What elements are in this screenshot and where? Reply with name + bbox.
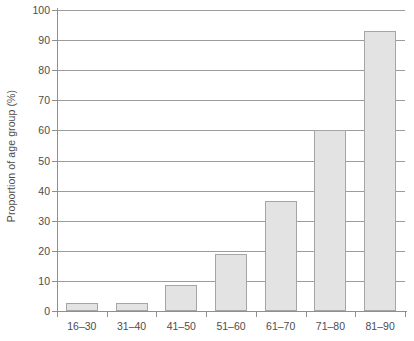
- bar-81–90: [364, 31, 396, 311]
- y-tick-label-10: 10: [16, 276, 50, 286]
- bar-31–40: [116, 303, 148, 311]
- x-tick-mark-6: [355, 311, 356, 317]
- y-tick-label-90: 90: [16, 35, 50, 45]
- x-axis-ticks: [57, 311, 405, 319]
- x-tick-label-81–90: 81–90: [355, 320, 405, 332]
- y-tick-label-20: 20: [16, 246, 50, 256]
- bar-61–70: [265, 201, 297, 311]
- y-tick-label-80: 80: [16, 65, 50, 75]
- y-axis-tick-labels: 0102030405060708090100: [12, 0, 50, 341]
- y-tick-label-0: 0: [16, 306, 50, 316]
- x-tick-mark-3: [206, 311, 207, 317]
- x-tick-label-61–70: 61–70: [256, 320, 306, 332]
- x-tick-label-31–40: 31–40: [107, 320, 157, 332]
- bars-layer: [57, 10, 405, 311]
- y-tick-label-40: 40: [16, 186, 50, 196]
- bar-51–60: [215, 254, 247, 311]
- x-axis-tick-labels: 16–3031–4041–5051–6061–7071–8081–90: [57, 320, 405, 340]
- bar-71–80: [314, 130, 346, 311]
- x-tick-mark-7: [405, 311, 406, 317]
- bar-16–30: [66, 303, 98, 311]
- y-tick-label-50: 50: [16, 156, 50, 166]
- bar-41–50: [165, 285, 197, 311]
- x-tick-mark-5: [306, 311, 307, 317]
- y-tick-label-30: 30: [16, 216, 50, 226]
- x-tick-mark-1: [107, 311, 108, 317]
- x-tick-mark-4: [256, 311, 257, 317]
- x-tick-label-51–60: 51–60: [206, 320, 256, 332]
- x-tick-label-41–50: 41–50: [156, 320, 206, 332]
- y-tick-label-70: 70: [16, 95, 50, 105]
- x-tick-label-71–80: 71–80: [306, 320, 356, 332]
- x-tick-mark-2: [156, 311, 157, 317]
- y-tick-label-100: 100: [16, 5, 50, 15]
- y-tick-label-60: 60: [16, 125, 50, 135]
- bar-chart-figure: Proportion of age group (%) 010203040506…: [0, 0, 414, 341]
- x-tick-mark-0: [57, 311, 58, 317]
- x-tick-label-16–30: 16–30: [57, 320, 107, 332]
